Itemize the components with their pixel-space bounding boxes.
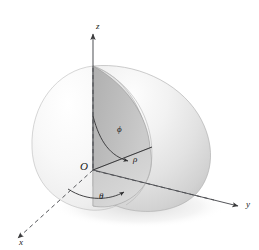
theta-angle-label: θ [99,192,103,201]
rho-radius-label: ρ [133,155,137,164]
phi-angle-label: ϕ [117,125,122,134]
spherical-coordinates-svg [0,0,259,250]
y-axis-label: y [246,200,250,209]
x-axis-label: x [19,238,23,247]
spherical-coordinates-figure: z y x O ϕ θ ρ [0,0,259,250]
origin-label: O [80,161,88,172]
z-axis-label: z [96,22,100,31]
